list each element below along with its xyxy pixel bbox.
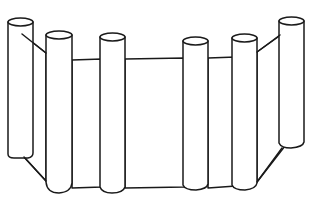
pillar-4 <box>183 37 208 190</box>
pillar-3 <box>100 33 125 193</box>
pillar-6 <box>279 17 304 148</box>
pillar-2 <box>46 31 72 193</box>
folding-screen-drawing <box>0 0 310 202</box>
panel-2-3 <box>72 59 102 188</box>
panel-center <box>125 58 185 188</box>
pillar-5 <box>232 34 257 190</box>
